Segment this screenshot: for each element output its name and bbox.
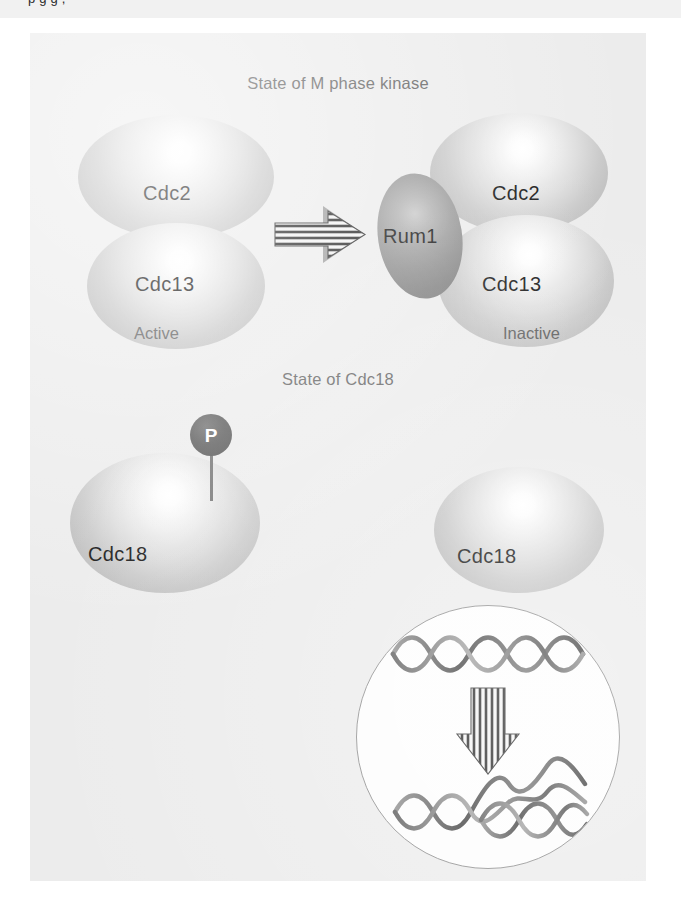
- cropped-caption-text: p g g ,: [28, 0, 66, 6]
- blob-label-cdc13-inactive: Cdc13: [482, 273, 541, 296]
- dna-daughter-helix-lower: [481, 804, 587, 837]
- phosphate-label: P: [205, 426, 218, 445]
- dna-replication-inset: [356, 605, 620, 869]
- blob-label-cdc13-active: Cdc13: [135, 273, 194, 296]
- phosphate-group-icon: P: [190, 414, 232, 456]
- section-title-cdc18: State of Cdc18: [30, 370, 646, 389]
- blob-label-cdc18-unphosphorylated: Cdc18: [457, 545, 516, 568]
- figure-panel: State of M phase kinase Cdc2 Cdc13 Activ…: [30, 33, 646, 881]
- blob-cdc18-unphosphorylated: [434, 467, 604, 593]
- dna-parent-helix: [393, 638, 583, 671]
- blob-label-rum1: Rum1: [383, 225, 438, 248]
- state-label-inactive: Inactive: [503, 324, 560, 343]
- blob-label-cdc2-inactive: Cdc2: [492, 182, 540, 205]
- blob-cdc18-phosphorylated: [70, 453, 260, 593]
- dna-transition-arrow-down: [457, 688, 519, 774]
- blob-label-cdc2-active: Cdc2: [143, 182, 191, 205]
- state-label-active: Active: [134, 324, 179, 343]
- dna-replication-illustration: [357, 606, 619, 868]
- section-title-m-phase-kinase: State of M phase kinase: [30, 74, 646, 93]
- cropped-caption-strip: p g g ,: [0, 0, 681, 18]
- transition-arrow-right: [273, 205, 378, 265]
- blob-label-cdc18-phosphorylated: Cdc18: [88, 543, 147, 566]
- blob-cdc2-active: [78, 115, 274, 239]
